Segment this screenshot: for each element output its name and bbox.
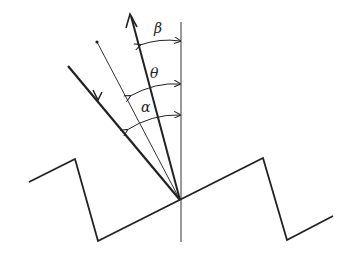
facet-normal-ray [97, 42, 180, 200]
blazed-grating-diagram: β θ α [0, 0, 354, 264]
alpha-label: α [141, 99, 151, 115]
incident-ray [68, 66, 180, 200]
theta-angle-arc [130, 84, 180, 96]
alpha-angle-arc [127, 115, 180, 130]
beta-angle-arc [140, 40, 180, 45]
facet-normal-end-dot [95, 40, 98, 43]
theta-label: θ [150, 65, 159, 81]
beta-label: β [153, 20, 162, 36]
